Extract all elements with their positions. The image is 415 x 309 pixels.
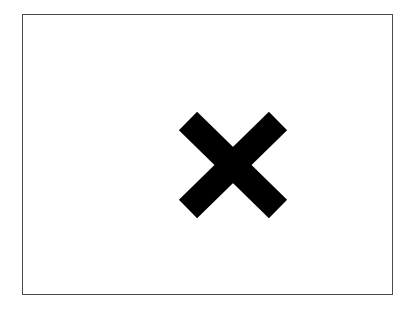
bordered-frame <box>22 14 393 295</box>
close-x-icon <box>175 109 291 221</box>
